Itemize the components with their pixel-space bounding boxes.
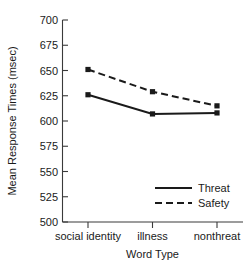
y-axis-title: Mean Response Times (msec)	[6, 46, 18, 195]
legend-label-threat: Threat	[198, 182, 230, 194]
x-tick-marks	[88, 222, 217, 228]
x-tick-label: social identity	[55, 230, 122, 242]
data-point	[150, 89, 155, 94]
y-tick-label: 550	[40, 166, 58, 178]
data-point	[214, 110, 219, 115]
data-point	[150, 111, 155, 116]
y-tick-marks	[63, 20, 69, 222]
data-point	[85, 92, 90, 97]
x-tick-label: illness	[137, 230, 168, 242]
y-tick-label: 600	[40, 115, 58, 127]
y-tick-labels: 700 675 650 625 600 575 550 525 500	[40, 14, 58, 228]
chart-figure: 700 675 650 625 600 575 550 525 500 soci…	[0, 0, 250, 269]
chart-legend: Threat Safety	[155, 182, 230, 209]
x-tick-labels: social identity illness nonthreat	[55, 230, 240, 242]
y-tick-label: 675	[40, 39, 58, 51]
y-tick-label: 575	[40, 140, 58, 152]
x-axis-title: Word Type	[126, 248, 179, 260]
data-point	[85, 67, 90, 72]
x-tick-label: nonthreat	[194, 230, 240, 242]
y-tick-label: 650	[40, 65, 58, 77]
y-tick-label: 500	[40, 216, 58, 228]
data-point	[214, 103, 219, 108]
y-tick-label: 625	[40, 90, 58, 102]
y-tick-label: 525	[40, 191, 58, 203]
y-tick-label: 700	[40, 14, 58, 26]
line-chart: 700 675 650 625 600 575 550 525 500 soci…	[0, 0, 250, 269]
legend-label-safety: Safety	[198, 197, 230, 209]
series-line-threat	[88, 95, 217, 114]
